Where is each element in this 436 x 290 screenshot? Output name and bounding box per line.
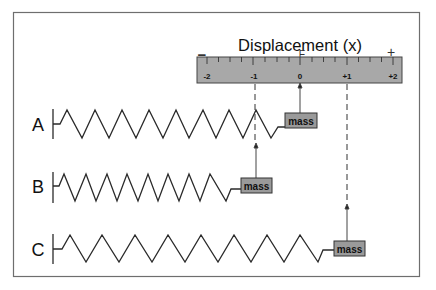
spring-coil [53,174,241,201]
arrow-head-icon [298,83,302,88]
spring-coil [53,110,285,138]
spring-label-c: C [32,240,45,260]
arrow-head-icon [345,204,349,209]
tick-label: -1 [250,72,258,81]
mass-label: mass [244,181,270,192]
tick-label: 0 [298,72,303,81]
mass-label: mass [288,116,314,127]
mass-label: mass [337,244,363,255]
spring-label-b: B [32,177,44,197]
displacement-ruler: -2 -1 0 +1 +2 [197,57,402,83]
spring-mass-diagram: Displacement (x) − E + -2 -1 [0,0,436,290]
mass-b: mass [241,178,272,193]
spring-a [53,109,285,139]
tick-label: +2 [388,72,398,81]
mass-a: mass [285,113,317,128]
tick-label: -2 [203,72,211,81]
spring-c [53,234,334,264]
arrow-head-icon [254,143,258,148]
spring-b [53,172,241,203]
mass-c: mass [334,241,365,256]
spring-coil [53,235,334,262]
tick-label: +1 [342,72,352,81]
spring-label-a: A [32,115,44,135]
